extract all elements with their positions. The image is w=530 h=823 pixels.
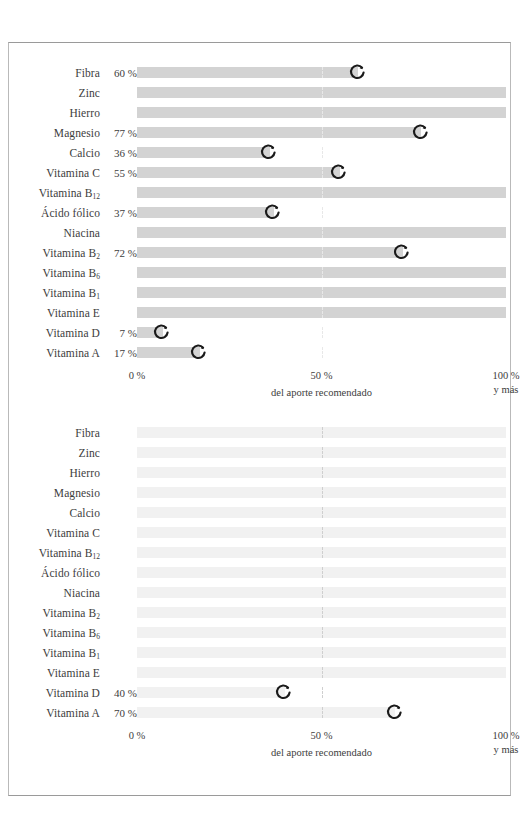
row-bar [137, 147, 270, 158]
row-label: Vitamina B6 [0, 625, 100, 641]
gridline-50 [322, 127, 323, 138]
row-value-label: 37 % [105, 205, 137, 221]
row-value-label: 7 % [105, 325, 137, 341]
row-label-subscript: 1 [96, 292, 100, 301]
row-track [137, 667, 506, 678]
chart-row: Ácido fólico [9, 563, 512, 583]
row-track [137, 127, 506, 138]
row-track [137, 287, 506, 298]
chart-row: Vitamina A17 % [9, 343, 512, 363]
row-label: Fibra [0, 425, 100, 441]
row-bar [137, 687, 285, 698]
row-label: Hierro [0, 105, 100, 121]
row-track [137, 567, 506, 578]
gridline-50 [322, 447, 323, 458]
chart-row: Calcio36 % [9, 143, 512, 163]
chart-rows-bottom: FibraZincHierroMagnesioCalcioVitamina CV… [9, 423, 512, 723]
chart-page-frame: Fibra60 %ZincHierroMagnesio77 %Calcio36 … [8, 42, 511, 796]
row-track [137, 307, 506, 318]
row-label: Vitamina B12 [0, 545, 100, 561]
chart-row: Vitamina D7 % [9, 323, 512, 343]
row-value-label: 70 % [105, 705, 137, 721]
nutrient-chart-bottom: FibraZincHierroMagnesioCalcioVitamina CV… [9, 423, 512, 769]
chart-row: Vitamina B12 [9, 543, 512, 563]
gridline-50 [322, 487, 323, 498]
axis-tick-100: 100 % y más [492, 369, 519, 397]
gridline-50 [322, 227, 323, 238]
row-track [137, 247, 506, 258]
chart-row: Vitamina B1 [9, 643, 512, 663]
chart-axis-top: 0 % 50 % 100 % y más del aporte recomend… [9, 369, 512, 409]
row-track [137, 487, 506, 498]
row-bar [137, 247, 403, 258]
row-label: Vitamina B12 [0, 185, 100, 201]
row-bar [137, 327, 163, 338]
axis-tick-100-sub: y más [492, 743, 519, 757]
row-value-label: 36 % [105, 145, 137, 161]
row-track [137, 607, 506, 618]
chart-row: Vitamina A70 % [9, 703, 512, 723]
row-bar [137, 127, 421, 138]
gridline-50 [322, 567, 323, 578]
chart-row: Fibra60 % [9, 63, 512, 83]
gridline-50 [322, 467, 323, 478]
axis-tick-50: 50 % [311, 369, 333, 383]
row-track [137, 67, 506, 78]
row-label: Hierro [0, 465, 100, 481]
row-value-label: 55 % [105, 165, 137, 181]
row-label: Vitamina E [0, 665, 100, 681]
row-value-label: 72 % [105, 245, 137, 261]
axis-tick-50: 50 % [311, 729, 333, 743]
gridline-50 [322, 587, 323, 598]
row-label: Niacina [0, 585, 100, 601]
row-value-label: 60 % [105, 65, 137, 81]
gridline-50 [322, 647, 323, 658]
chart-row: Zinc [9, 443, 512, 463]
row-track [137, 87, 506, 98]
row-label: Magnesio [0, 125, 100, 141]
chart-axis-bottom: 0 % 50 % 100 % y más del aporte recomend… [9, 729, 512, 769]
axis-tick-100-sub: y más [492, 383, 519, 397]
row-label-subscript: 1 [96, 652, 100, 661]
gridline-50 [322, 307, 323, 318]
chart-row: Vitamina B6 [9, 623, 512, 643]
row-track [137, 427, 506, 438]
chart-row: Vitamina B1 [9, 283, 512, 303]
chart-row: Calcio [9, 503, 512, 523]
row-label: Vitamina A [0, 345, 100, 361]
row-label: Vitamina B2 [0, 245, 100, 261]
row-label: Magnesio [0, 485, 100, 501]
chart-row: Magnesio77 % [9, 123, 512, 143]
chart-row: Vitamina C55 % [9, 163, 512, 183]
row-track [137, 587, 506, 598]
gridline-50 [322, 607, 323, 618]
gridline-50 [322, 627, 323, 638]
row-label-subscript: 2 [96, 612, 100, 621]
row-label: Niacina [0, 225, 100, 241]
row-label: Vitamina B1 [0, 645, 100, 661]
axis-tick-100: 100 % y más [492, 729, 519, 757]
axis-tick-0: 0 % [129, 369, 146, 383]
row-label: Calcio [0, 145, 100, 161]
chart-row: Zinc [9, 83, 512, 103]
row-bar [137, 347, 200, 358]
row-track [137, 507, 506, 518]
axis-title: del aporte recomendado [271, 386, 372, 400]
row-label: Calcio [0, 505, 100, 521]
gridline-50 [322, 267, 323, 278]
row-label-subscript: 6 [96, 272, 100, 281]
chart-row: Vitamina E [9, 663, 512, 683]
chart-row: Magnesio [9, 483, 512, 503]
gridline-50 [322, 87, 323, 98]
gridline-50 [322, 247, 323, 258]
gridline-50 [322, 167, 323, 178]
row-label: Vitamina A [0, 705, 100, 721]
gridline-50 [322, 187, 323, 198]
row-value-label: 17 % [105, 345, 137, 361]
row-label: Fibra [0, 65, 100, 81]
gridline-50 [322, 427, 323, 438]
gridline-50 [322, 707, 323, 718]
gridline-50 [322, 347, 323, 358]
row-track [137, 107, 506, 118]
chart-row: Hierro [9, 463, 512, 483]
